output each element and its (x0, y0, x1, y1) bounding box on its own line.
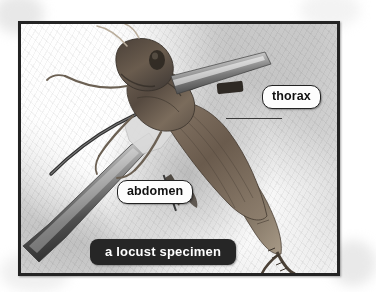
locust-antenna (125, 24, 139, 38)
specimen-illustration (21, 24, 337, 273)
locust-antenna (97, 26, 127, 46)
callout-label-abdomen[interactable]: abdomen (117, 180, 193, 204)
callout-label-thorax[interactable]: thorax (262, 85, 321, 109)
photograph (21, 24, 337, 273)
specimen-pin-tag (217, 81, 244, 95)
leader-line-thorax (226, 118, 282, 119)
locust-head (116, 39, 173, 91)
photo-frame (18, 21, 340, 276)
figure-caption: a locust specimen (90, 239, 236, 265)
locust-foreleg (65, 76, 127, 88)
